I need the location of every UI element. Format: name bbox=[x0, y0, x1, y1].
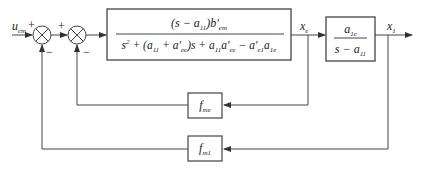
sum2-minus-sign: − bbox=[83, 46, 90, 58]
sum-junction-1 bbox=[33, 26, 51, 44]
forward-numerator: (s − a11)b′em bbox=[107, 16, 291, 32]
forward-denominator: s2 + (a11 + a′ee)s + a11a′ee − a′e1a1e bbox=[107, 38, 291, 54]
outer-feedback-label: fm1 bbox=[188, 141, 222, 157]
xe-label: xe bbox=[300, 20, 308, 37]
inner-feedback-return bbox=[77, 45, 188, 105]
sum1-plus-sign: + bbox=[28, 19, 35, 31]
sum-junction-2 bbox=[68, 26, 86, 44]
input-label: ucm bbox=[12, 20, 26, 37]
sum1-minus-sign: − bbox=[46, 46, 53, 58]
second-denominator: s − a11 bbox=[326, 42, 375, 58]
sum2-plus-sign: + bbox=[58, 20, 65, 32]
inner-feedback-label: fme bbox=[188, 98, 222, 114]
second-numerator: a1e bbox=[326, 22, 375, 38]
output-label: x1 bbox=[387, 20, 396, 37]
